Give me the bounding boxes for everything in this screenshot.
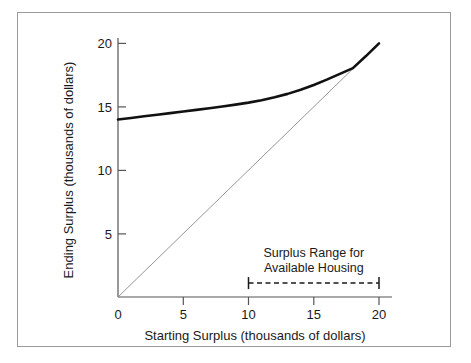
x-tick-label-5: 5 <box>180 307 187 322</box>
x-axis-title: Starting Surplus (thousands of dollars) <box>144 328 365 343</box>
x-tick-label-15: 15 <box>307 307 321 322</box>
y-tick-label-5: 5 <box>105 227 112 242</box>
y-tick-marks <box>118 43 126 234</box>
x-tick-label-20: 20 <box>372 307 386 322</box>
x-tick-marks <box>183 297 379 305</box>
x-tick-label-0: 0 <box>114 307 121 322</box>
x-tick-label-10: 10 <box>241 307 255 322</box>
surplus-range-label-line1: Surplus Range for <box>263 246 364 260</box>
chart-canvas: 20 15 10 5 0 5 10 15 20 Starting Surplus… <box>0 0 471 363</box>
surplus-range-bar <box>249 277 380 289</box>
y-tick-label-10: 10 <box>98 163 112 178</box>
y-axis-title: Ending Surplus (thousands of dollars) <box>61 62 76 279</box>
y-tick-label-20: 20 <box>98 36 112 51</box>
surplus-range-label-line2: Available Housing <box>264 261 364 275</box>
y-tick-label-15: 15 <box>98 100 112 115</box>
